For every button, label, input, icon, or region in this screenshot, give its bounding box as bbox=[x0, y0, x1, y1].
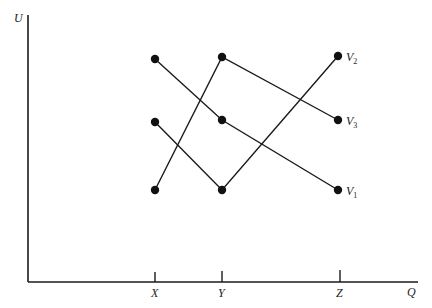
tick-y: Y bbox=[218, 286, 226, 300]
tick-x: X bbox=[150, 286, 159, 300]
point-v1-y bbox=[218, 116, 226, 124]
label-v2: V2 bbox=[346, 50, 357, 66]
series-v2-line bbox=[155, 56, 338, 190]
x-axis-label: Q bbox=[407, 285, 416, 299]
utility-diagram: U Q X Y Z V2 V3 V1 bbox=[0, 0, 432, 308]
tick-z: Z bbox=[336, 286, 343, 300]
point-v3-x bbox=[151, 186, 159, 194]
point-v3-z bbox=[334, 116, 342, 124]
point-v2-x bbox=[151, 118, 159, 126]
series-v1-line bbox=[155, 59, 338, 190]
x-ticks bbox=[155, 270, 340, 282]
point-v2-z bbox=[334, 52, 342, 60]
y-axis-label: U bbox=[14, 11, 24, 25]
point-v2-y bbox=[218, 186, 226, 194]
series-v3-line bbox=[155, 57, 338, 190]
label-v1: V1 bbox=[346, 184, 357, 200]
point-v1-x bbox=[151, 55, 159, 63]
point-v1-z bbox=[334, 186, 342, 194]
label-v3: V3 bbox=[346, 114, 357, 130]
point-v3-y bbox=[218, 53, 226, 61]
